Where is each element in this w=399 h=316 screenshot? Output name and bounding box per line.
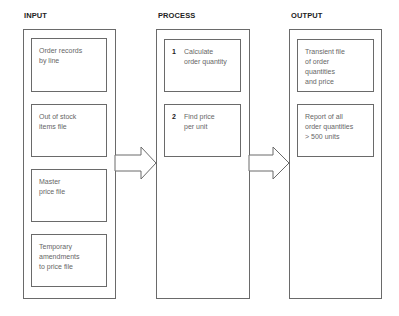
process-step-find-price: 2 Find price per unit xyxy=(164,104,241,157)
output-item-report: Report of all order quantities > 500 uni… xyxy=(297,104,374,157)
input-column-title: INPUT xyxy=(24,11,47,20)
output-column-title: OUTPUT xyxy=(291,11,322,20)
process-step-calculate: 1 Calculate order quantity xyxy=(164,39,241,92)
right-block-arrow-icon xyxy=(115,146,157,182)
input-item-temporary-amendments: Temporary amendments to price file xyxy=(31,234,107,287)
input-item-label: Out of stock items file xyxy=(39,112,106,132)
step-number: 2 xyxy=(172,112,176,122)
output-item-label: Report of all order quantities > 500 uni… xyxy=(305,112,373,142)
input-item-master-price: Master price file xyxy=(31,169,107,222)
output-item-label: Transient file of order quantities and p… xyxy=(305,47,373,87)
input-item-out-of-stock: Out of stock items file xyxy=(31,104,107,157)
output-item-transient-file: Transient file of order quantities and p… xyxy=(297,39,374,92)
input-item-label: Temporary amendments to price file xyxy=(39,242,106,272)
input-item-label: Master price file xyxy=(39,177,106,197)
input-item-order-records: Order records by line xyxy=(31,38,107,92)
process-column-title: PROCESS xyxy=(158,11,195,20)
input-item-label: Order records by line xyxy=(39,46,106,66)
step-number: 1 xyxy=(172,47,176,57)
right-block-arrow-icon xyxy=(249,146,291,182)
step-label: Find price per unit xyxy=(184,112,240,132)
step-label: Calculate order quantity xyxy=(184,47,240,67)
